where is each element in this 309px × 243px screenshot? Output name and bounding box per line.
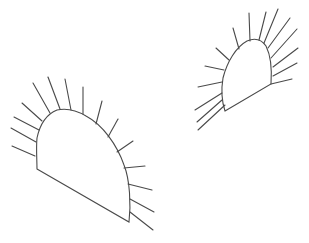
left-dome-ray (11, 128, 36, 142)
left-dome-ray (33, 83, 50, 113)
left-dome-shape (11, 77, 154, 230)
left-dome-ray (130, 212, 153, 230)
figure-canvas (0, 0, 309, 243)
left-dome-ray (124, 166, 145, 168)
left-dome-outline (37, 109, 130, 222)
right-dome-shape (195, 9, 298, 130)
left-dome-ray (48, 77, 60, 109)
left-dome-rays (11, 77, 154, 230)
right-dome-outline (222, 39, 271, 111)
right-dome-ray (268, 18, 290, 48)
left-dome-ray (14, 117, 39, 130)
left-dome-ray (65, 79, 71, 110)
right-dome-rays (195, 9, 298, 130)
right-dome-ray (271, 29, 297, 58)
right-dome-ray (271, 79, 292, 84)
right-dome-ray (198, 82, 222, 87)
right-dome-ray (233, 28, 239, 49)
right-dome-ray (259, 12, 266, 40)
right-dome-ray (195, 93, 222, 110)
left-dome-ray (12, 146, 35, 156)
figure-svg (0, 0, 309, 243)
left-dome-ray (128, 184, 152, 190)
left-dome-ray (108, 119, 118, 137)
left-dome-ray (96, 101, 102, 124)
left-dome-ray (117, 141, 133, 152)
left-dome-ray (22, 103, 42, 121)
left-dome-ray (130, 199, 154, 212)
right-dome-ray (205, 66, 224, 70)
right-dome-ray (249, 13, 250, 41)
right-dome-ray (216, 48, 229, 60)
